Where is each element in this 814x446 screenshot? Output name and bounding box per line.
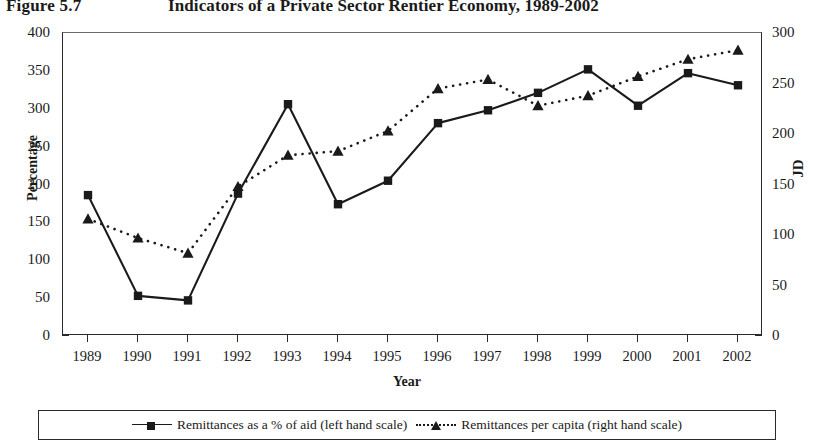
legend-key-triangle-dotted-icon <box>416 419 456 431</box>
x-tick-label: 1999 <box>573 348 602 365</box>
y-axis-right-title: JD <box>790 139 807 199</box>
legend-label-series1: Remittances as a % of aid (left hand sca… <box>177 417 407 433</box>
x-tick-label: 1995 <box>373 348 402 365</box>
x-tick-label: 1993 <box>273 348 302 365</box>
x-tick-label: 1989 <box>73 348 102 365</box>
y-tick-label-right: 100 <box>772 226 795 243</box>
data-point-square <box>484 106 492 114</box>
x-tick-mark <box>137 335 138 342</box>
x-axis-labels: 1989199019911992199319941995199619971998… <box>0 348 814 368</box>
x-tick-label: 1991 <box>173 348 202 365</box>
data-point-triangle <box>182 248 193 258</box>
data-point-triangle <box>732 45 743 55</box>
data-point-triangle <box>282 150 293 160</box>
x-tick-mark <box>437 335 438 342</box>
legend-label-series2: Remittances per capita (right hand scale… <box>461 417 682 433</box>
data-point-square <box>684 69 692 77</box>
data-point-square <box>334 200 342 208</box>
x-tick-label: 1990 <box>123 348 152 365</box>
figure-container: Figure 5.7 Indicators of a Private Secto… <box>0 0 814 446</box>
y-tick-label-left: 0 <box>43 327 51 344</box>
x-tick-label: 1996 <box>423 348 452 365</box>
data-point-square <box>184 296 192 304</box>
page-title: Indicators of a Private Sector Rentier E… <box>168 0 599 16</box>
y-tick-label-right: 0 <box>772 327 780 344</box>
legend-item-series1: Remittances as a % of aid (left hand sca… <box>132 417 407 433</box>
y-axis-left-title: Percentage <box>25 108 41 228</box>
legend-item-series2: Remittances per capita (right hand scale… <box>416 417 682 433</box>
data-point-triangle <box>482 74 493 84</box>
data-point-triangle <box>632 71 643 81</box>
x-axis-title: Year <box>0 374 814 390</box>
figure-title-row: Figure 5.7 Indicators of a Private Secto… <box>0 0 814 20</box>
data-point-square <box>134 292 142 300</box>
data-point-square <box>634 102 642 110</box>
x-tick-mark <box>287 335 288 342</box>
x-tick-mark <box>87 335 88 342</box>
x-tick-mark <box>537 335 538 342</box>
data-point-square <box>384 177 392 185</box>
y-tick-label-right: 50 <box>772 276 787 293</box>
y-tick-label-left: 50 <box>35 289 50 306</box>
y-tick-label-right: 300 <box>772 24 795 41</box>
x-tick-mark <box>687 335 688 342</box>
y-tick-label-left: 100 <box>28 251 51 268</box>
x-tick-mark <box>737 335 738 342</box>
x-tick-label: 2001 <box>673 348 702 365</box>
chart-legend: Remittances as a % of aid (left hand sca… <box>38 410 776 440</box>
series-1 <box>84 65 742 304</box>
legend-key-square-solid-icon <box>132 419 172 431</box>
x-tick-label: 1994 <box>323 348 352 365</box>
data-point-square <box>734 81 742 89</box>
x-tick-label: 1992 <box>223 348 252 365</box>
data-point-triangle <box>582 90 593 100</box>
data-point-triangle <box>532 100 543 110</box>
plot-area <box>62 32 762 335</box>
x-tick-label: 1998 <box>523 348 552 365</box>
data-point-triangle <box>382 125 393 135</box>
y-tick-label-right: 250 <box>772 74 795 91</box>
data-point-square <box>284 100 292 108</box>
x-tick-mark <box>187 335 188 342</box>
x-tick-mark <box>337 335 338 342</box>
series-canvas <box>63 33 763 336</box>
data-point-triangle <box>432 83 443 93</box>
data-point-square <box>584 65 592 73</box>
data-point-triangle <box>82 213 93 223</box>
x-tick-mark <box>237 335 238 342</box>
data-point-triangle <box>332 146 343 156</box>
x-tick-label: 2000 <box>623 348 652 365</box>
x-tick-mark <box>387 335 388 342</box>
y-tick-label-left: 350 <box>28 61 51 78</box>
y-tick-label-left: 400 <box>28 24 51 41</box>
data-point-square <box>84 191 92 199</box>
data-point-square <box>534 89 542 97</box>
x-tick-mark <box>487 335 488 342</box>
x-tick-label: 2002 <box>723 348 752 365</box>
x-tick-mark <box>587 335 588 342</box>
data-point-square <box>434 119 442 127</box>
x-tick-mark <box>637 335 638 342</box>
figure-number: Figure 5.7 <box>6 0 81 16</box>
x-tick-label: 1997 <box>473 348 502 365</box>
data-point-triangle <box>682 54 693 64</box>
